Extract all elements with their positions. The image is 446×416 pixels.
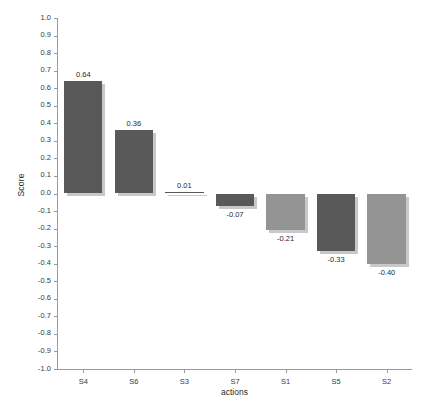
y-axis-tick-label: 0.4 <box>41 118 51 127</box>
y-axis-tick-label: -0.2 <box>38 223 51 232</box>
bar-group: -0.33S5 <box>311 18 362 369</box>
y-axis-tick-label: 0.0 <box>41 188 51 197</box>
y-axis-tick-label: -1.0 <box>38 364 51 373</box>
x-axis-tick-label-s4: S4 <box>58 369 109 386</box>
bar-chart-figure: Score 1.00.90.80.70.60.50.40.30.20.10.0-… <box>0 0 446 416</box>
x-axis-tick-label-s5: S5 <box>311 369 362 386</box>
y-axis-tick-label: 0.9 <box>41 30 51 39</box>
bar-group: -0.07S7 <box>210 18 261 369</box>
y-axis-tick-label: 0.1 <box>41 170 51 179</box>
bar-s1[interactable] <box>266 194 304 231</box>
bar-group: 0.01S3 <box>159 18 210 369</box>
x-axis-title: actions <box>57 387 412 397</box>
x-axis-tick-label-s1: S1 <box>260 369 311 386</box>
y-axis-tick-label: -0.3 <box>38 241 51 250</box>
bar-value-label: 0.64 <box>58 70 109 79</box>
y-axis-tick-label: 0.7 <box>41 65 51 74</box>
y-axis-tick-label: -0.4 <box>38 258 51 267</box>
bar-group: 0.36S6 <box>109 18 160 369</box>
bar-value-label: -0.33 <box>311 255 362 264</box>
y-axis-title-text: Score <box>16 173 26 196</box>
y-axis-tick-label: 0.2 <box>41 153 51 162</box>
y-axis-tick-label: 0.8 <box>41 48 51 57</box>
plot-area: 1.00.90.80.70.60.50.40.30.20.10.0-0.1-0.… <box>57 18 412 370</box>
bar-group: 0.64S4 <box>58 18 109 369</box>
bar-group: -0.21S1 <box>260 18 311 369</box>
y-axis-tick-label: -0.6 <box>38 293 51 302</box>
x-axis-tick-label-s2: S2 <box>361 369 412 386</box>
y-axis-title: Score <box>13 0 29 370</box>
bar-s3[interactable] <box>165 192 203 194</box>
bar-value-label: -0.21 <box>260 234 311 243</box>
bar-value-label: -0.07 <box>210 210 261 219</box>
x-axis-tick-label-s7: S7 <box>210 369 261 386</box>
bar-value-label: -0.40 <box>361 268 412 277</box>
bar-s5[interactable] <box>317 194 355 252</box>
bar-group: -0.40S2 <box>361 18 412 369</box>
bar-s2[interactable] <box>367 194 405 264</box>
y-axis-tick-label: 1.0 <box>41 13 51 22</box>
y-axis-tick-label: -0.8 <box>38 328 51 337</box>
y-axis-tick-label: 0.5 <box>41 100 51 109</box>
bar-s7[interactable] <box>216 194 254 206</box>
y-axis-tick-label: -0.5 <box>38 276 51 285</box>
y-axis-tick-label: -0.7 <box>38 311 51 320</box>
y-axis-tick-label: -0.9 <box>38 346 51 355</box>
bar-s4[interactable] <box>64 81 102 193</box>
bar-value-label: 0.01 <box>159 181 210 190</box>
bar-shadow <box>168 195 206 197</box>
y-axis-tick-label: 0.6 <box>41 83 51 92</box>
y-axis-tick-label: 0.3 <box>41 135 51 144</box>
y-axis-tick-label: -0.1 <box>38 206 51 215</box>
x-axis-tick-label-s6: S6 <box>109 369 160 386</box>
x-axis-tick-label-s3: S3 <box>159 369 210 386</box>
bar-s6[interactable] <box>115 130 153 193</box>
bar-value-label: 0.36 <box>109 119 160 128</box>
